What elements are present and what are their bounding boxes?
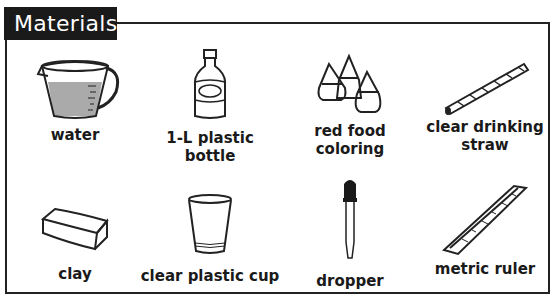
- measuring-cup-icon: [30, 52, 120, 120]
- material-label: red food coloring: [290, 122, 410, 158]
- food-coloring-bottles-icon: [315, 52, 385, 116]
- straw-icon: [440, 60, 530, 116]
- clay-block-icon: [39, 205, 111, 251]
- ruler-icon: [440, 182, 530, 256]
- material-dropper: dropper: [300, 176, 400, 290]
- material-label: 1-L plastic bottle: [140, 129, 280, 165]
- material-clay: clay: [30, 205, 120, 283]
- dropper-icon: [340, 176, 360, 260]
- materials-title: Materials: [4, 7, 117, 40]
- material-water: water: [20, 52, 130, 144]
- material-label: dropper: [300, 272, 400, 290]
- material-label: water: [20, 126, 130, 144]
- material-plastic-bottle: 1-L plastic bottle: [140, 48, 280, 165]
- material-label: metric ruler: [420, 260, 550, 278]
- material-label: clay: [30, 265, 120, 283]
- material-label: clear drinking straw: [420, 118, 550, 154]
- material-label: clear plastic cup: [140, 267, 280, 285]
- material-drinking-straw: clear drinking straw: [420, 60, 550, 154]
- material-plastic-cup: clear plastic cup: [140, 193, 280, 285]
- material-red-food-coloring: red food coloring: [290, 52, 410, 158]
- plastic-cup-icon: [185, 193, 235, 255]
- material-metric-ruler: metric ruler: [420, 182, 550, 278]
- bottle-icon: [190, 48, 230, 120]
